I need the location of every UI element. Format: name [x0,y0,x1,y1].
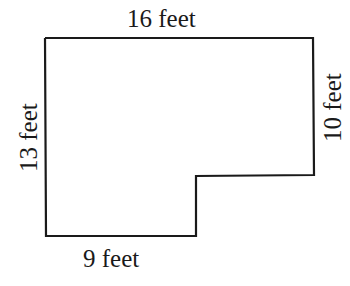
right-dimension-label: 10 feet [320,78,345,142]
left-dimension-label: 13 feet [16,108,41,172]
top-dimension-label: 16 feet [127,6,196,31]
bottom-dimension-label: 9 feet [83,246,139,271]
shape-border [45,38,314,236]
l-shape-outline [0,0,350,286]
